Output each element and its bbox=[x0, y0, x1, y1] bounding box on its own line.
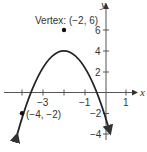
point-label: (−4, −2) bbox=[26, 109, 61, 120]
x-tick-label: 1 bbox=[123, 97, 129, 108]
vertex-label: Vertex: (−2, 6) bbox=[35, 15, 98, 26]
y-tick-label: 2 bbox=[95, 67, 101, 78]
x-tick-label: −1 bbox=[79, 97, 91, 108]
x-axis-label: x bbox=[139, 86, 145, 98]
parabola-chart: −3 −1 1 6 4 2 −2 −4 x y Vertex: (−2, 6) … bbox=[0, 0, 147, 152]
vertex-point bbox=[62, 28, 66, 32]
y-axis-label: y bbox=[100, 0, 106, 10]
point-marker bbox=[20, 111, 24, 115]
y-tick-label: 6 bbox=[95, 25, 101, 36]
y-tick-label: −4 bbox=[90, 129, 102, 140]
x-tick-label: −3 bbox=[37, 97, 49, 108]
y-tick-label: 4 bbox=[95, 46, 101, 57]
y-tick-label: −2 bbox=[90, 108, 102, 119]
